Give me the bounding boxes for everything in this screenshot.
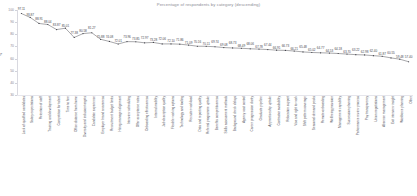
x-tick-label: Contractor availability bbox=[278, 96, 281, 126]
data-point bbox=[302, 51, 303, 52]
data-point-label: 61.87 bbox=[378, 52, 386, 56]
x-tick-label: Diversity and inclusion targets bbox=[84, 96, 87, 137]
x-tick-label: Absence management bbox=[383, 96, 386, 127]
data-point-label: 66.73 bbox=[282, 44, 290, 48]
x-tick-label: Career progression clarity bbox=[251, 96, 254, 131]
data-point-label: 69.08 bbox=[220, 43, 228, 47]
x-tick-label: Benefits competitiveness bbox=[216, 96, 219, 130]
data-point-label: 72.01 bbox=[114, 39, 122, 43]
data-point bbox=[408, 61, 409, 62]
x-tick-label: Union negotiations bbox=[375, 96, 378, 122]
data-point-label: 83.87 bbox=[53, 23, 61, 27]
x-tick-label: Skills assessment methods bbox=[225, 96, 228, 133]
x-tick-label: Wellbeing provision bbox=[331, 96, 334, 123]
x-tick-label: Other bbox=[410, 96, 413, 104]
x-tick-label: Technology and tooling bbox=[181, 96, 184, 128]
x-tick-label: Recruiter workload bbox=[190, 96, 193, 122]
data-point bbox=[329, 52, 330, 53]
data-point bbox=[311, 52, 312, 53]
x-tick-label: Job description quality bbox=[163, 96, 166, 127]
x-tick-label: Offer acceptance rates bbox=[137, 96, 140, 127]
data-point-label: 60.55 bbox=[387, 51, 395, 55]
data-point bbox=[276, 50, 277, 51]
data-point bbox=[355, 54, 356, 55]
data-point-label: 66.91 bbox=[273, 46, 281, 50]
x-tick-label: Visa and right to work bbox=[295, 96, 298, 126]
data-point-label: 68.49 bbox=[238, 44, 246, 48]
data-point-label: 57.40 bbox=[405, 55, 413, 59]
data-point-label: 68.06 bbox=[246, 42, 254, 46]
data-point bbox=[82, 33, 83, 34]
x-tick-label: Background check delays bbox=[234, 96, 237, 131]
x-tick-label: Internal mobility bbox=[155, 96, 158, 118]
data-point-label: 93.87 bbox=[26, 13, 34, 17]
data-point bbox=[382, 56, 383, 57]
x-tick-label: Lack of qualified candidates bbox=[23, 96, 26, 134]
data-point-label: 65.48 bbox=[299, 45, 307, 49]
data-point bbox=[250, 48, 251, 49]
x-tick-label: Retention of staff bbox=[40, 96, 43, 119]
x-tick-label: Hiring manager alignment bbox=[119, 96, 122, 131]
series-line bbox=[21, 14, 408, 62]
data-point bbox=[65, 28, 66, 29]
data-point bbox=[100, 39, 101, 40]
data-point bbox=[47, 24, 48, 25]
data-point bbox=[346, 53, 347, 54]
data-point-label: 64.53 bbox=[326, 49, 334, 53]
data-point bbox=[170, 43, 171, 44]
x-tick-label: Apprenticeship uptake bbox=[269, 96, 272, 127]
data-point-label: 74.08 bbox=[106, 35, 114, 39]
x-tick-label: Management capability bbox=[339, 96, 342, 128]
data-point-label: 71.86 bbox=[176, 38, 184, 42]
data-point bbox=[153, 42, 154, 43]
x-tick-label: Exit interview insight bbox=[392, 96, 395, 124]
data-point bbox=[399, 59, 400, 60]
data-point bbox=[179, 44, 180, 45]
x-tick-label: Competition for talent bbox=[58, 96, 61, 125]
data-point-label: 62.40 bbox=[370, 49, 378, 53]
data-point-label: 85.01 bbox=[62, 24, 70, 28]
data-point bbox=[56, 29, 57, 30]
data-point bbox=[206, 46, 207, 47]
x-tick-label: Employer brand awareness bbox=[102, 96, 105, 134]
x-tick-label: Salary expectations bbox=[31, 96, 34, 123]
x-tick-label: Time to hire bbox=[67, 96, 70, 112]
data-point bbox=[162, 43, 163, 44]
x-tick-label: Workforce planning bbox=[401, 96, 404, 123]
data-point-label: 88.04 bbox=[44, 20, 52, 24]
data-point-label: 64.77 bbox=[317, 46, 325, 50]
data-point-label: 73.85 bbox=[132, 37, 140, 41]
data-point-label: 62.98 bbox=[361, 50, 369, 54]
data-point-label: 70.11 bbox=[203, 42, 210, 46]
data-point-label: 73.96 bbox=[123, 35, 131, 39]
x-tick-label: Interview scheduling bbox=[128, 96, 131, 124]
data-point-label: 75.88 bbox=[97, 35, 105, 39]
data-point-label: 67.44 bbox=[264, 43, 272, 47]
data-point-label: 81.27 bbox=[88, 26, 96, 30]
data-point bbox=[214, 46, 215, 47]
x-tick-label: Candidate experience bbox=[93, 96, 96, 126]
x-tick-label: Flexible working options bbox=[172, 96, 175, 129]
data-point bbox=[144, 42, 145, 43]
x-tick-label: Office distance from home bbox=[75, 96, 78, 132]
x-tick-label: Remote onboarding bbox=[322, 96, 325, 123]
data-point-label: 77.38 bbox=[70, 31, 78, 35]
x-tick-label: Performance review process bbox=[357, 96, 360, 135]
x-tick-label: Pay transparency bbox=[366, 96, 369, 120]
x-tick-label: Referral programme uptake bbox=[207, 96, 210, 134]
x-tick-label: Seasonal demand peaks bbox=[313, 96, 316, 130]
data-point bbox=[338, 53, 339, 54]
data-point bbox=[267, 49, 268, 50]
x-tick-label: Data and reporting quality bbox=[199, 96, 202, 131]
data-point-label: 88.91 bbox=[35, 17, 43, 21]
data-point-label: 59.48 bbox=[396, 55, 404, 59]
x-tick-label: Shift pattern coverage bbox=[304, 96, 307, 126]
series-points bbox=[21, 13, 409, 62]
data-point bbox=[188, 45, 189, 46]
data-point-label: 72.10 bbox=[167, 39, 175, 43]
data-point bbox=[241, 48, 242, 49]
data-point bbox=[74, 37, 75, 38]
data-point bbox=[197, 46, 198, 47]
data-point bbox=[109, 41, 110, 42]
data-point-label: 66.21 bbox=[290, 47, 298, 51]
